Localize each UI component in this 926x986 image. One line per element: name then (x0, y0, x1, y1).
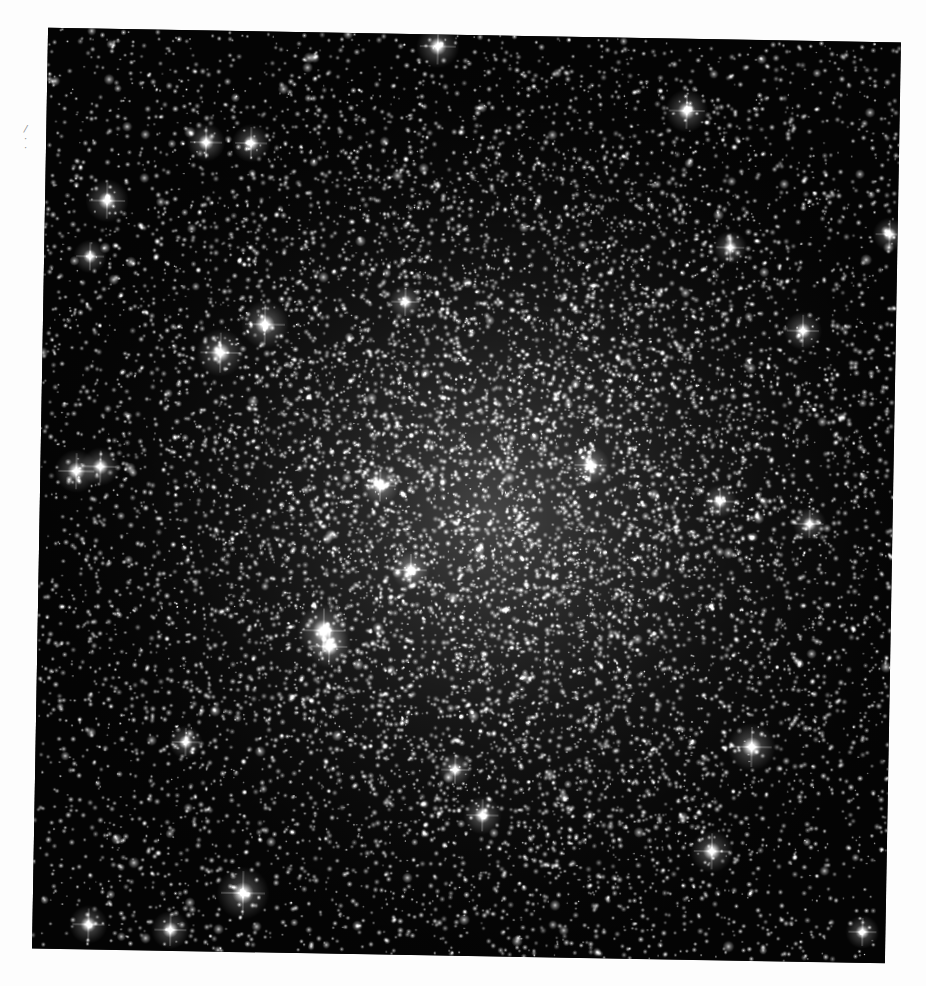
starfield-canvas (32, 28, 901, 964)
page: / · · (0, 0, 926, 986)
star-cluster-photo (32, 28, 901, 964)
scan-mark: · (24, 143, 27, 153)
